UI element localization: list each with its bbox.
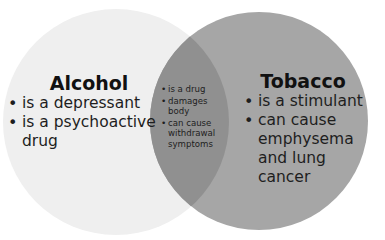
alcohol-section: Alcohol is a depressant is a psychoactiv… bbox=[8, 72, 158, 151]
shared-section: is a drug damages body can cause withdra… bbox=[161, 84, 221, 150]
tobacco-title: Tobacco bbox=[244, 70, 358, 92]
alcohol-list: is a depressant is a psychoactive drug bbox=[8, 94, 158, 151]
tobacco-section: Tobacco is a stimulant can cause emphyse… bbox=[244, 70, 364, 187]
alcohol-item: is a psychoactive drug bbox=[8, 113, 158, 151]
shared-item: damages body bbox=[161, 96, 210, 117]
shared-item: is a drug bbox=[161, 84, 221, 95]
tobacco-item: can cause emphysema and lung cancer bbox=[244, 111, 346, 187]
alcohol-title: Alcohol bbox=[8, 72, 160, 94]
tobacco-list: is a stimulant can cause emphysema and l… bbox=[244, 92, 364, 187]
alcohol-item: is a depressant bbox=[8, 94, 158, 113]
tobacco-item: is a stimulant bbox=[244, 92, 364, 111]
shared-item: can cause withdrawal symptoms bbox=[161, 118, 220, 150]
shared-list: is a drug damages body can cause withdra… bbox=[161, 84, 221, 149]
